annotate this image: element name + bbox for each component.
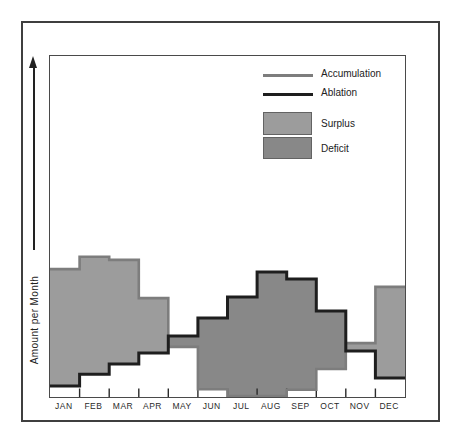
legend-label-deficit: Deficit: [321, 143, 349, 154]
ablation-line-swatch: [263, 93, 313, 96]
mass-balance-chart: [50, 56, 405, 397]
accumulation-line-swatch: [263, 74, 313, 77]
month-label-mar: MAR: [113, 401, 133, 411]
month-label-sep: SEP: [291, 401, 310, 411]
month-label-nov: NOV: [350, 401, 370, 411]
month-label-jun: JUN: [203, 401, 221, 411]
month-label-dec: DEC: [379, 401, 398, 411]
legend-label-accumulation: Accumulation: [321, 68, 381, 79]
legend-label-surplus: Surplus: [321, 118, 355, 129]
surplus-box-swatch: [263, 112, 312, 135]
month-label-oct: OCT: [320, 401, 339, 411]
month-label-may: MAY: [172, 401, 191, 411]
month-label-aug: AUG: [261, 401, 281, 411]
legend-label-ablation: Ablation: [321, 87, 357, 98]
plot-area: [49, 55, 406, 398]
month-label-jan: JAN: [55, 401, 73, 411]
y-axis-arrow-line: [33, 66, 35, 250]
month-label-feb: FEB: [84, 401, 102, 411]
y-axis-label: Amount per Month: [29, 276, 40, 365]
month-label-jul: JUL: [233, 401, 250, 411]
deficit-box-swatch: [263, 137, 312, 159]
month-label-apr: APR: [143, 401, 162, 411]
figure-page: { "figure": { "y_axis_label": "Amount pe…: [0, 0, 453, 440]
